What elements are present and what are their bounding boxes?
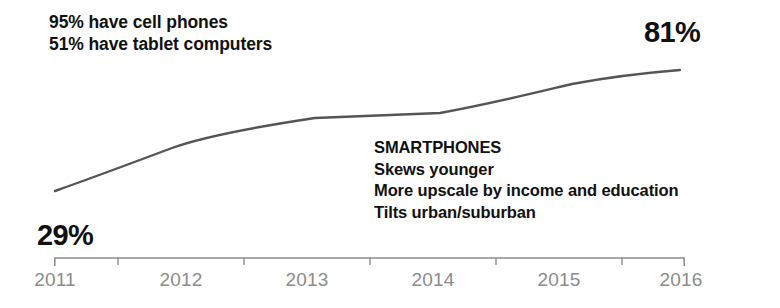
x-tick-label-2012: 2012 (159, 269, 202, 291)
x-tick-label-2013: 2013 (285, 269, 328, 291)
x-tick-label-2016: 2016 (659, 269, 702, 291)
series-line-smartphones (55, 70, 680, 191)
chart-canvas: 95% have cell phones 51% have tablet com… (0, 0, 780, 308)
plot-area (0, 0, 780, 308)
x-tick-label-2014: 2014 (411, 269, 454, 291)
x-tick-label-2011: 2011 (34, 269, 76, 291)
x-tick-label-2015: 2015 (537, 269, 580, 291)
